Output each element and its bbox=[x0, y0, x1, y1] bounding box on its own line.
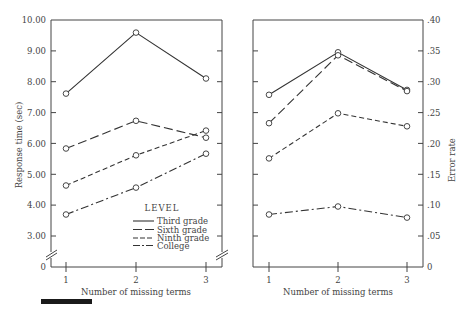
right-ytick-label: .20 bbox=[427, 139, 441, 149]
right-ytick-label: .40 bbox=[427, 15, 441, 25]
left-ytick-label: 8.00 bbox=[27, 77, 46, 87]
left-ytick-label: 3.00 bbox=[27, 231, 46, 241]
left-axis-break bbox=[44, 250, 229, 260]
right-xtick-label: 3 bbox=[404, 275, 409, 285]
right-chart: .40 .35 .30 .25 .20 .15 .10 .05 0 1 2 3 … bbox=[253, 15, 457, 297]
legend-item: College bbox=[157, 241, 190, 251]
right-xtick-label: 1 bbox=[266, 275, 271, 285]
legend-title: LEVEL bbox=[145, 203, 180, 213]
right-series-third-grade bbox=[269, 52, 407, 95]
left-y-ticks bbox=[51, 51, 222, 236]
right-xtick-label: 2 bbox=[335, 275, 340, 285]
left-xtick-label: 1 bbox=[63, 275, 68, 285]
right-ytick-label: .15 bbox=[427, 170, 441, 180]
left-x-axis-label: Number of missing terms bbox=[81, 287, 191, 297]
left-ytick-label: 7.00 bbox=[27, 108, 46, 118]
left-ytick-label: 0 bbox=[41, 262, 46, 272]
left-markers bbox=[63, 30, 209, 218]
left-ytick-label: 5.00 bbox=[27, 170, 46, 180]
figure: 10.00 9.00 8.00 7.00 6.00 5.00 4.00 3.00… bbox=[0, 0, 466, 312]
left-y-axis-label: Response time (sec) bbox=[14, 102, 24, 189]
right-markers bbox=[266, 50, 410, 221]
right-ytick-label: .05 bbox=[427, 231, 441, 241]
right-ytick-label: .30 bbox=[427, 77, 441, 87]
left-chart: 10.00 9.00 8.00 7.00 6.00 5.00 4.00 3.00… bbox=[14, 15, 229, 297]
scale-bar bbox=[41, 299, 92, 304]
right-y-axis-label: Error rate bbox=[447, 138, 457, 182]
left-ytick-label: 10.00 bbox=[22, 15, 46, 25]
left-series-third-grade bbox=[66, 33, 206, 94]
right-ytick-label: .10 bbox=[427, 200, 441, 210]
left-ytick-label: 4.00 bbox=[27, 200, 46, 210]
right-ytick-label: .25 bbox=[427, 108, 441, 118]
left-xtick-label: 3 bbox=[203, 275, 208, 285]
right-x-axis-label: Number of missing terms bbox=[283, 287, 393, 297]
right-series-ninth-grade bbox=[269, 113, 407, 158]
left-xtick-label: 2 bbox=[133, 275, 138, 285]
left-series-college bbox=[66, 154, 206, 215]
left-ytick-label: 6.00 bbox=[27, 139, 46, 149]
right-ytick-label: .35 bbox=[427, 46, 441, 56]
right-ytick-label: 0 bbox=[427, 262, 432, 272]
left-ytick-label: 9.00 bbox=[27, 46, 46, 56]
left-series-sixth-grade bbox=[66, 121, 206, 149]
legend: LEVEL Third grade Sixth grade Ninth grad… bbox=[133, 203, 209, 251]
